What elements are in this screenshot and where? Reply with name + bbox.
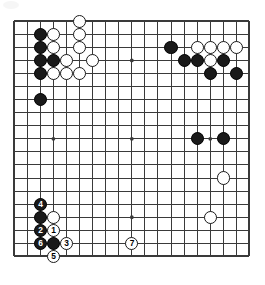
- stone-white: [73, 28, 86, 41]
- stone-black: [178, 54, 191, 67]
- stone-black: [164, 41, 177, 54]
- move-number-label: 7: [130, 239, 134, 247]
- stone-white: [204, 211, 217, 224]
- move-number-label: 2: [38, 226, 42, 234]
- move-stone-black-6: 6: [34, 237, 47, 250]
- star-point: [52, 137, 56, 141]
- star-point: [130, 215, 134, 219]
- stone-white: [73, 41, 86, 54]
- stone-black: [204, 67, 217, 80]
- stone-white: [191, 41, 204, 54]
- move-number-label: 4: [38, 200, 42, 208]
- stone-white: [47, 28, 60, 41]
- stone-white: [47, 67, 60, 80]
- stone-black: [34, 211, 47, 224]
- move-stone-white-3: 3: [60, 237, 73, 250]
- stone-white: [47, 41, 60, 54]
- stone-black: [34, 67, 47, 80]
- stone-black: [34, 28, 47, 41]
- move-stone-black-4: 4: [34, 198, 47, 211]
- stone-black: [47, 54, 60, 67]
- stone-black: [191, 54, 204, 67]
- star-point: [130, 59, 134, 63]
- move-number-label: 3: [64, 239, 68, 247]
- stone-black: [34, 41, 47, 54]
- move-number-label: 1: [51, 226, 55, 234]
- stone-black: [47, 237, 60, 250]
- stone-black: [217, 54, 230, 67]
- stone-black: [34, 93, 47, 106]
- stone-black: [230, 67, 243, 80]
- star-point: [208, 137, 212, 141]
- stone-white: [60, 54, 73, 67]
- move-stone-white-1: 1: [47, 224, 60, 237]
- stone-white: [217, 41, 230, 54]
- stone-white: [217, 171, 230, 184]
- stone-white: [204, 41, 217, 54]
- move-number-label: 6: [38, 239, 42, 247]
- stone-white: [73, 15, 86, 28]
- stone-white: [230, 41, 243, 54]
- stone-black: [34, 54, 47, 67]
- stone-white: [204, 54, 217, 67]
- stone-white: [47, 211, 60, 224]
- go-board-diagram: 4216375: [0, 0, 265, 285]
- star-point: [130, 137, 134, 141]
- stone-white: [60, 67, 73, 80]
- move-stone-white-5: 5: [47, 250, 60, 263]
- move-number-label: 5: [51, 252, 55, 260]
- move-stone-black-2: 2: [34, 224, 47, 237]
